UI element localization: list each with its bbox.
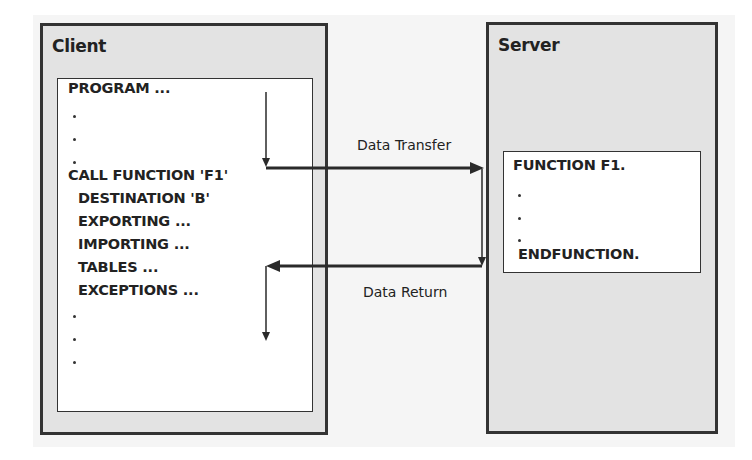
data-transfer-arrow — [266, 162, 484, 174]
data-return-arrow — [266, 260, 482, 272]
program-flow-arrow — [262, 92, 270, 167]
continue-flow-arrow — [262, 266, 270, 341]
flow-arrows — [0, 0, 752, 460]
server-processing-connector — [478, 169, 486, 266]
